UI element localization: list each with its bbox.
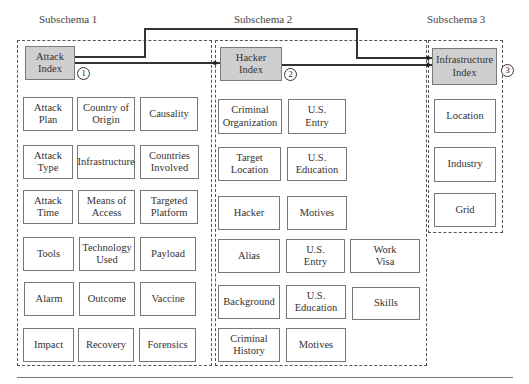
entity-box: Motives — [286, 328, 346, 362]
entity-label: Hacker — [234, 207, 264, 220]
entity-box: U.S. Entry — [286, 239, 345, 273]
entity-label: Alias — [238, 250, 260, 263]
entity-label: Work Visa — [373, 244, 396, 269]
entity-box: Criminal Organization — [218, 99, 282, 134]
entity-box: Vaccine — [140, 282, 196, 316]
entity-label: Attack Type — [34, 150, 62, 175]
entity-box: Criminal History — [218, 328, 280, 362]
entity-box: Motives — [287, 196, 347, 230]
entity-label: Target Location — [231, 152, 268, 177]
entity-label: Means of Access — [87, 195, 126, 220]
entity-box: Recovery — [78, 328, 134, 362]
entity-box: Technology Used — [79, 237, 135, 271]
entity-box: Causality — [140, 97, 198, 131]
entity-label: Motives — [300, 207, 334, 220]
entity-label: U.S. Entry — [305, 104, 328, 129]
entity-box: Alias — [218, 239, 280, 273]
entity-box: Outcome — [79, 282, 135, 316]
entity-box: Forensics — [139, 328, 196, 362]
entity-label: Location — [446, 110, 483, 123]
bottom-divider — [17, 377, 513, 378]
connector-dot-infra-top — [426, 56, 430, 60]
entity-box: Countries Involved — [140, 145, 199, 179]
entity-label: Tools — [37, 248, 60, 261]
entity-box: Means of Access — [78, 190, 135, 224]
entity-box: Hacker — [218, 196, 280, 230]
entity-box: Attack Plan — [23, 97, 73, 131]
entity-label: Technology Used — [82, 242, 131, 267]
entity-label: Industry — [448, 158, 483, 171]
entity-label: Background — [223, 296, 274, 309]
entity-box: Alarm — [24, 282, 74, 316]
entity-box: Attack Time — [23, 190, 73, 224]
entity-box: Attack Type — [23, 145, 73, 179]
entity-label: Vaccine — [151, 293, 184, 306]
index-number-2-badge: 2 — [284, 68, 297, 81]
infrastructure-index-label: Infrastructure Index — [436, 54, 493, 79]
entity-label: U.S. Education — [296, 152, 339, 177]
entity-box: Industry — [434, 147, 496, 182]
entity-box: U.S. Entry — [288, 99, 346, 134]
entity-label: Payload — [151, 248, 185, 261]
entity-label: Outcome — [88, 293, 127, 306]
entity-label: Alarm — [36, 293, 63, 306]
entity-label: Countries Involved — [149, 150, 190, 175]
attack-index-box: Attack Index — [25, 46, 75, 80]
entity-box: Payload — [140, 237, 196, 271]
attack-index-label: Attack Index — [36, 51, 64, 76]
entity-label: U.S. Entry — [304, 244, 327, 269]
entity-label: Attack Time — [34, 195, 62, 220]
entity-label: Targeted Platform — [151, 195, 188, 220]
entity-box: Work Visa — [350, 239, 420, 273]
entity-label: Criminal Organization — [223, 104, 278, 129]
entity-label: Skills — [374, 297, 398, 310]
index-number-1-badge: 1 — [77, 67, 90, 80]
infrastructure-index-box: Infrastructure Index — [432, 48, 497, 85]
hacker-index-box: Hacker Index — [220, 47, 282, 81]
entity-box: Impact — [23, 328, 74, 362]
index-number-3-badge: 3 — [501, 64, 514, 77]
entity-label: Infrastructure — [77, 156, 134, 169]
entity-label: Attack Plan — [34, 102, 62, 127]
entity-box: Targeted Platform — [140, 190, 198, 224]
connector-dot-infra-bottom — [426, 63, 430, 67]
connector-dot-hacker — [213, 61, 217, 65]
entity-label: Causality — [149, 108, 189, 121]
hacker-index-label: Hacker Index — [236, 52, 266, 77]
entity-label: Recovery — [86, 339, 126, 352]
entity-box: Country of Origin — [77, 97, 135, 131]
entity-box: U.S. Education — [286, 285, 346, 319]
entity-box: Grid — [434, 193, 496, 227]
entity-box: Target Location — [218, 147, 281, 181]
entity-label: Grid — [455, 204, 474, 217]
entity-box: Infrastructure — [77, 145, 135, 179]
entity-label: Country of Origin — [83, 102, 129, 127]
entity-label: Criminal History — [230, 333, 267, 358]
entity-label: Forensics — [147, 339, 187, 352]
entity-box: Location — [434, 99, 496, 133]
entity-label: U.S. Education — [295, 290, 338, 315]
entity-label: Impact — [34, 339, 63, 352]
entity-box: Tools — [23, 237, 74, 271]
entity-label: Motives — [299, 339, 333, 352]
entity-box: Background — [218, 285, 280, 319]
entity-box: U.S. Education — [287, 147, 347, 181]
entity-box: Skills — [352, 287, 420, 320]
